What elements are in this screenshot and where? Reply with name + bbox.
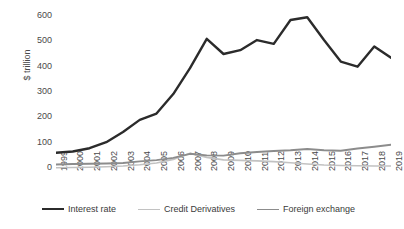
legend-item-interest-rate[interactable]: Interest rate — [42, 204, 116, 214]
plot-area — [56, 16, 391, 168]
series-line-interest-rate — [56, 17, 391, 153]
legend-label-foreign-exchange: Foreign exchange — [283, 204, 355, 214]
legend-swatch-interest-rate — [42, 208, 64, 210]
legend-item-credit-derivatives[interactable]: Credit Derivatives — [138, 204, 235, 214]
legend-swatch-credit-derivatives — [138, 209, 160, 210]
legend-label-credit-derivatives: Credit Derivatives — [164, 204, 235, 214]
legend-item-foreign-exchange[interactable]: Foreign exchange — [257, 204, 355, 214]
x-tick-2019: 2019 — [395, 151, 404, 171]
series-line-foreign-exchange — [56, 145, 391, 165]
legend-label-interest-rate: Interest rate — [68, 204, 116, 214]
legend-swatch-foreign-exchange — [257, 209, 279, 210]
chart-legend: Interest rate Credit Derivatives Foreign… — [0, 204, 397, 214]
